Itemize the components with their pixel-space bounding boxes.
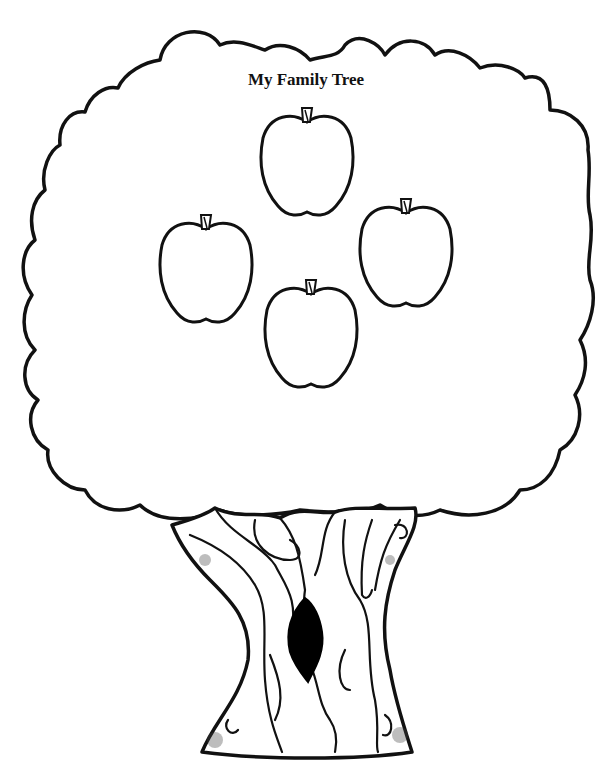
family-tree-worksheet: My Family Tree — [0, 0, 612, 772]
apple-top[interactable] — [261, 108, 353, 215]
apples-layer — [0, 0, 612, 772]
apple-bottom[interactable] — [265, 280, 357, 387]
apple-left[interactable] — [160, 215, 252, 322]
apple-right[interactable] — [360, 199, 452, 306]
